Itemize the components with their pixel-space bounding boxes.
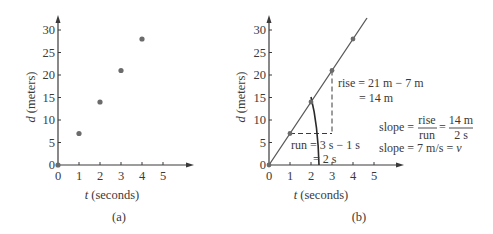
annotations: rise = 21 m − 7 m = 14 m run = 3 s − 1 s…: [291, 76, 474, 166]
slope-frac-den2: 2 s: [454, 128, 468, 142]
svg-text:1: 1: [76, 169, 82, 183]
slope-frac-num1: rise: [418, 113, 435, 127]
svg-text:20: 20: [43, 68, 56, 82]
svg-text:20: 20: [254, 68, 267, 82]
x-axis-label: t(seconds): [294, 188, 348, 202]
svg-text:0: 0: [49, 158, 55, 172]
svg-text:0: 0: [266, 169, 272, 183]
svg-text:25: 25: [254, 46, 267, 60]
data-point: [288, 131, 293, 136]
data-point: [351, 37, 356, 42]
data-point: [55, 162, 60, 167]
slope-result: slope = 7 m/s = v: [379, 141, 462, 155]
y-axis-arrow-icon: [267, 15, 272, 23]
svg-text:10: 10: [43, 113, 56, 127]
y-tick-labels: 0 5 10 15 20 25 30: [254, 23, 267, 172]
svg-text:5: 5: [371, 169, 377, 183]
y-axis-label: d(meters): [234, 72, 248, 123]
data-point: [97, 99, 102, 104]
svg-text:5: 5: [160, 169, 166, 183]
data-point: [267, 163, 272, 168]
y-axis-arrow-icon: [56, 15, 61, 23]
y-tick-labels: 0 5 10 15 20 25 30: [43, 23, 56, 172]
chart-a: 0 1 2 3 4 5 0 5 10 15 20 25 30 t(seconds…: [24, 15, 194, 224]
svg-text:3: 3: [118, 169, 124, 183]
run-text-2: = 2 s: [313, 152, 337, 166]
rise-text-2: = 14 m: [359, 91, 394, 105]
svg-text:10: 10: [254, 113, 267, 127]
svg-text:2: 2: [308, 169, 314, 183]
panel-label-a: (a): [112, 210, 126, 224]
data-point: [118, 68, 123, 73]
rise-text-1: rise = 21 m − 7 m: [338, 76, 424, 90]
x-axis-arrow-icon: [396, 163, 404, 168]
y-axis-label: d(meters): [24, 72, 38, 123]
figure: 0 1 2 3 4 5 0 5 10 15 20 25 30 t(seconds…: [0, 0, 493, 234]
data-point: [76, 131, 81, 136]
x-tick-labels: 0 1 2 3 4 5: [266, 169, 377, 183]
svg-text:30: 30: [254, 23, 267, 37]
svg-text:2: 2: [97, 169, 103, 183]
svg-text:0: 0: [55, 169, 61, 183]
slope-label: slope =: [379, 120, 414, 134]
run-text-1: run = 3 s − 1 s: [291, 138, 360, 152]
data-point: [330, 68, 335, 73]
data-points: [55, 36, 144, 167]
svg-text:4: 4: [139, 169, 146, 183]
svg-text:3: 3: [329, 169, 335, 183]
svg-text:5: 5: [260, 136, 266, 150]
chart-b: 0 1 2 3 4 5 0 5 10 15 20 25 30 t(seconds…: [234, 15, 474, 224]
panel-label-b: (b): [352, 210, 367, 224]
svg-text:15: 15: [43, 91, 56, 105]
slope-eq: =: [439, 120, 446, 134]
svg-text:1: 1: [287, 169, 293, 183]
x-axis-arrow-icon: [186, 163, 194, 168]
svg-text:0: 0: [260, 158, 266, 172]
data-point: [139, 36, 144, 41]
svg-text:25: 25: [43, 46, 56, 60]
data-point: [309, 100, 314, 105]
svg-text:15: 15: [254, 91, 267, 105]
svg-text:5: 5: [49, 136, 55, 150]
x-axis-label: t(seconds): [85, 188, 139, 202]
svg-text:4: 4: [350, 169, 357, 183]
svg-text:30: 30: [43, 23, 56, 37]
x-tick-labels: 0 1 2 3 4 5: [55, 169, 166, 183]
slope-frac-den1: run: [419, 128, 435, 142]
slope-frac-num2: 14 m: [449, 113, 474, 127]
